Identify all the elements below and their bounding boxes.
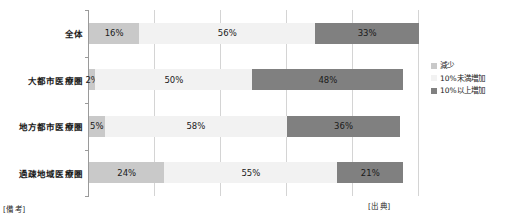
category-label: 大都市医療圏 (28, 74, 83, 86)
bar-value-label: 36% (334, 121, 353, 131)
axis-tick (85, 150, 89, 151)
table-row: 24%55%21% (89, 162, 403, 183)
bar-segment: 33% (315, 23, 419, 44)
bar-segment: 58% (105, 116, 287, 137)
legend-swatch-icon (431, 88, 437, 94)
table-row: 5%58%36% (89, 116, 400, 137)
chart-legend: 減少10%未満増加10%以上増加 (431, 62, 514, 100)
category-label: 過疎地域医療圏 (19, 167, 83, 179)
bar-value-label: 5% (90, 121, 104, 131)
bar-value-label: 21% (361, 168, 380, 178)
bar-segment: 36% (287, 116, 400, 137)
legend-item[interactable]: 減少 (431, 62, 514, 70)
legend-label: 10%未満増加 (440, 75, 485, 83)
axis-tick (85, 196, 89, 197)
stacked-bar-chart: 全体大都市医療圏地方都市医療圏過疎地域医療圏 16%56%33%2%50%48%… (0, 0, 514, 219)
legend-item[interactable]: 10%以上増加 (431, 87, 514, 95)
bar-value-label: 33% (358, 28, 377, 38)
bar-segment: 50% (95, 69, 252, 90)
bar-value-label: 48% (318, 75, 337, 85)
footer-note-left: [備 考] (3, 203, 25, 214)
bar-value-label: 55% (241, 168, 260, 178)
bar-segment: 16% (89, 23, 139, 44)
bar-segment: 56% (139, 23, 315, 44)
bar-value-label: 56% (218, 28, 237, 38)
bar-value-label: 24% (117, 168, 136, 178)
bar-segment: 48% (252, 69, 403, 90)
legend-label: 10%以上増加 (440, 87, 485, 95)
category-label: 全体 (65, 27, 83, 39)
axis-tick (85, 10, 89, 11)
legend-swatch-icon (431, 75, 437, 81)
bar-value-label: 50% (164, 75, 183, 85)
plot-area: 16%56%33%2%50%48%5%58%36%24%55%21% (88, 10, 418, 196)
axis-tick (85, 57, 89, 58)
bar-segment: 24% (89, 162, 164, 183)
legend-label: 減少 (440, 62, 454, 70)
bar-segment: 5% (89, 116, 105, 137)
legend-swatch-icon (431, 63, 437, 69)
category-axis-labels: 全体大都市医療圏地方都市医療圏過疎地域医療圏 (0, 10, 86, 196)
table-row: 2%50%48% (89, 69, 403, 90)
category-label: 地方都市医療圏 (19, 120, 83, 132)
footer-source-right: [出 典] (368, 200, 390, 211)
bar-value-label: 58% (186, 121, 205, 131)
bar-segment: 21% (337, 162, 403, 183)
legend-item[interactable]: 10%未満増加 (431, 75, 514, 83)
bar-segment: 55% (164, 162, 337, 183)
axis-tick (85, 103, 89, 104)
table-row: 16%56%33% (89, 23, 419, 44)
bar-value-label: 16% (105, 28, 124, 38)
